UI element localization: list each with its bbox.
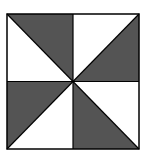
pinwheel-diagram	[0, 0, 149, 166]
